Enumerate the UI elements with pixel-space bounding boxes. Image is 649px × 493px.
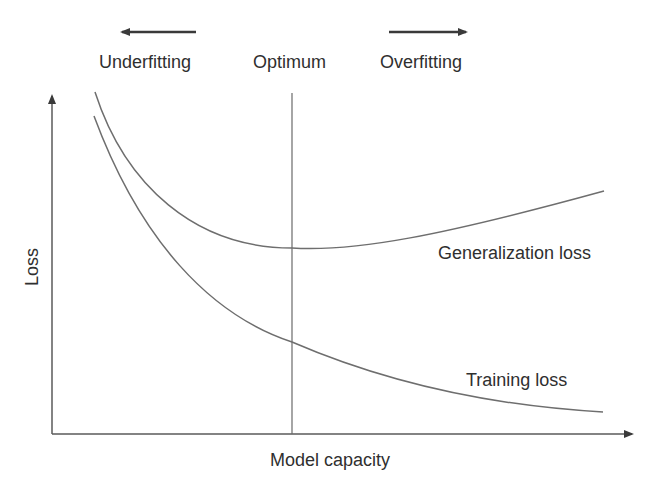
- x-axis-label: Model capacity: [270, 450, 390, 470]
- y-axis-label: Loss: [22, 248, 42, 286]
- overfitting-label: Overfitting: [380, 52, 462, 72]
- optimum-label: Optimum: [253, 52, 326, 72]
- generalization-loss-label: Generalization loss: [438, 243, 591, 263]
- training-loss-label: Training loss: [466, 370, 567, 390]
- underfitting-label: Underfitting: [99, 52, 191, 72]
- training-loss-curve: [94, 116, 603, 412]
- generalization-loss-curve: [95, 92, 604, 249]
